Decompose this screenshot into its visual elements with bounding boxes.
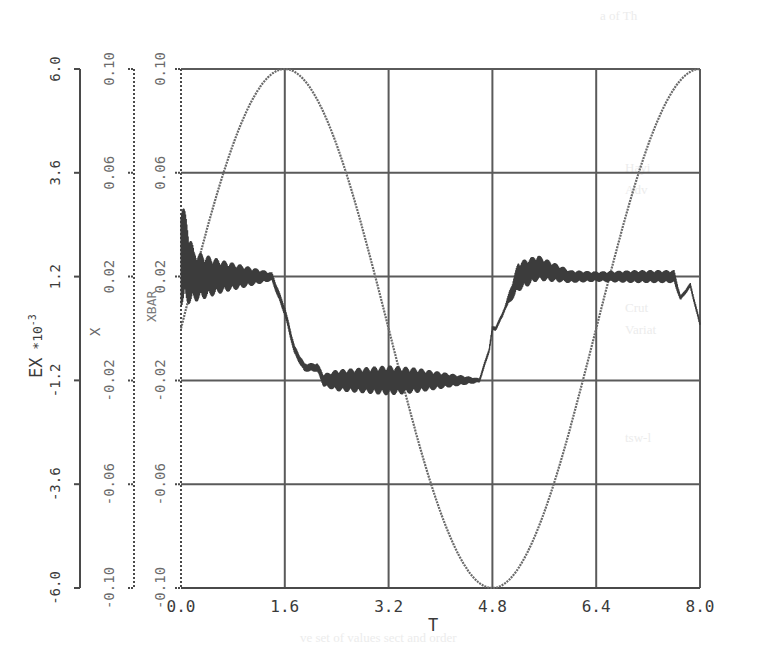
y-tick-label: -1.2 bbox=[47, 364, 63, 398]
x-axis-title: X bbox=[87, 327, 103, 336]
y-tick-label: 6.0 bbox=[47, 56, 63, 81]
y-tick-label: 1.2 bbox=[47, 264, 63, 289]
y-tick-label: -0.02 bbox=[101, 359, 117, 401]
ex-axis: 6.03.61.2-1.2-3.6-6.0 bbox=[47, 56, 80, 605]
y-tick-label: -0.06 bbox=[101, 463, 117, 505]
y-tick-label: 0.02 bbox=[101, 260, 117, 294]
chart: 6.03.61.2-1.2-3.6-6.00.100.060.02-0.02-0… bbox=[0, 0, 759, 658]
x-tick-label: 8.0 bbox=[686, 597, 715, 616]
y-tick-label: -3.6 bbox=[47, 467, 63, 501]
y-tick-label: -0.06 bbox=[152, 463, 168, 505]
y-tick-label: -0.02 bbox=[152, 359, 168, 401]
y-tick-label: 3.6 bbox=[47, 160, 63, 185]
xbar-axis-title: XBAR bbox=[144, 291, 159, 322]
x-tick-label: 0.0 bbox=[167, 597, 196, 616]
series-x-sinusoid bbox=[181, 69, 700, 588]
y-tick-label: 0.06 bbox=[152, 156, 168, 190]
y-axes: 6.03.61.2-1.2-3.6-6.00.100.060.02-0.02-0… bbox=[47, 52, 181, 609]
y-tick-label: 0.02 bbox=[152, 260, 168, 294]
y-tick-label: -0.10 bbox=[101, 567, 117, 609]
y-tick-label: -6.0 bbox=[47, 571, 63, 605]
x-tick-label: 1.6 bbox=[270, 597, 299, 616]
labels-layer: 0.01.63.24.86.48.0TEX *10-3XXBAR bbox=[26, 291, 714, 635]
x-tick-label: 3.2 bbox=[374, 597, 403, 616]
x-tick-label: 6.4 bbox=[582, 597, 611, 616]
series-layer bbox=[181, 69, 700, 588]
x-tick-label: 4.8 bbox=[478, 597, 507, 616]
series-ex-error bbox=[181, 209, 700, 396]
y-tick-label: 0.10 bbox=[101, 52, 117, 86]
y-tick-label: 0.06 bbox=[101, 156, 117, 190]
x-axis: 0.100.060.02-0.02-0.06-0.10 bbox=[101, 52, 134, 609]
y-tick-label: 0.10 bbox=[152, 52, 168, 86]
x-axis-title: T bbox=[428, 615, 438, 635]
ex-axis-title: EX *10-3 bbox=[26, 314, 46, 378]
xbar-axis: 0.100.060.02-0.02-0.06-0.10 bbox=[152, 52, 181, 609]
